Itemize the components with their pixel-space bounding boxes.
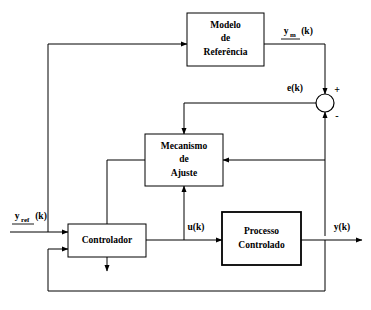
block-controlador[interactable]: Controlador	[68, 224, 146, 257]
block-processo-controlado-rect	[222, 212, 301, 265]
signal-ym-tail: (k)	[301, 26, 313, 37]
signal-label-yref: y ref (k)	[12, 211, 47, 224]
block-modelo-referencia[interactable]: Modelo de Referência	[187, 13, 264, 66]
signal-yref-tail: (k)	[35, 211, 47, 222]
signal-label-u: u(k)	[188, 222, 205, 233]
block-mecanismo-ajuste-line3: Ajuste	[171, 168, 197, 178]
block-diagram-svg: Modelo de Referência Mecanismo de Ajuste…	[0, 0, 371, 310]
block-mecanismo-ajuste-line2: de	[179, 154, 189, 164]
block-processo-controlado-line1: Processo	[244, 226, 279, 236]
signal-ym-base: y	[284, 26, 289, 36]
wire-mecanismo-to-controlador	[107, 160, 145, 224]
block-mecanismo-ajuste[interactable]: Mecanismo de Ajuste	[145, 134, 223, 186]
signal-yref-base: y	[15, 211, 20, 221]
block-diagram-canvas: Modelo de Referência Mecanismo de Ajuste…	[0, 0, 371, 310]
block-processo-controlado-line2: Controlado	[238, 240, 285, 250]
signal-label-y: y(k)	[334, 222, 350, 233]
signal-ym-subscript: m	[290, 31, 296, 39]
block-modelo-referencia-line1: Modelo	[210, 20, 241, 30]
summing-junction-circle	[316, 94, 334, 112]
signal-u-text: u(k)	[188, 222, 205, 233]
signal-erro-text: e(k)	[287, 83, 303, 94]
signal-label-ym: y m (k)	[281, 26, 313, 39]
signal-yref-subscript: ref	[21, 216, 30, 224]
summing-junction[interactable]: + -	[316, 84, 340, 121]
summing-junction-minus-sign: -	[335, 110, 338, 121]
summing-junction-plus-sign: +	[334, 84, 340, 95]
block-controlador-label: Controlador	[82, 235, 133, 245]
wire-erro-to-mecanismo	[184, 103, 316, 134]
block-modelo-referencia-line2: de	[221, 33, 231, 43]
block-processo-controlado[interactable]: Processo Controlado	[222, 212, 301, 265]
signal-label-erro: e(k)	[287, 83, 303, 94]
signal-y-text: y(k)	[334, 222, 350, 233]
block-mecanismo-ajuste-line1: Mecanismo	[161, 141, 208, 151]
block-modelo-referencia-line3: Referência	[204, 47, 248, 57]
